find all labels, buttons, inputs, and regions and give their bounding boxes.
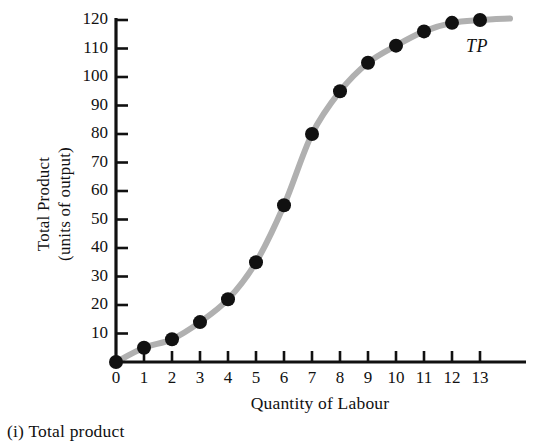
x-tick-label: 11 [409, 368, 439, 388]
x-tick-label: 13 [465, 368, 495, 388]
y-tick-label: 30 [64, 266, 108, 286]
x-tick-label: 6 [269, 368, 299, 388]
data-point-marker [137, 341, 151, 355]
y-tick-label: 70 [64, 152, 108, 172]
x-tick-label: 3 [185, 368, 215, 388]
x-tick-label: 9 [353, 368, 383, 388]
data-point-marker [445, 16, 459, 30]
data-point-marker [333, 84, 347, 98]
data-point-marker [361, 56, 375, 70]
x-tick-label: 8 [325, 368, 355, 388]
data-point-marker [249, 255, 263, 269]
data-point-marker [473, 13, 487, 27]
x-tick-label: 10 [381, 368, 411, 388]
x-tick-label: 4 [213, 368, 243, 388]
x-tick-label: 5 [241, 368, 271, 388]
data-point-marker [221, 292, 235, 306]
y-tick-label: 40 [64, 237, 108, 257]
data-point-marker [193, 315, 207, 329]
data-point-marker [109, 355, 123, 369]
data-point-marker [305, 127, 319, 141]
data-point-marker [165, 332, 179, 346]
x-tick-label: 12 [437, 368, 467, 388]
y-tick-label: 60 [64, 180, 108, 200]
y-tick-label: 90 [64, 95, 108, 115]
data-point-marker [389, 39, 403, 53]
data-point-marker [277, 198, 291, 212]
y-tick-label: 100 [64, 66, 108, 86]
y-tick-label: 20 [64, 294, 108, 314]
x-tick-label: 7 [297, 368, 327, 388]
y-tick-label: 80 [64, 123, 108, 143]
y-tick-label: 120 [64, 9, 108, 29]
y-tick-label: 10 [64, 323, 108, 343]
y-tick-label: 110 [64, 38, 108, 58]
data-point-marker [417, 24, 431, 38]
total-product-curve [116, 19, 510, 363]
x-tick-label: 2 [157, 368, 187, 388]
y-tick-label: 50 [64, 209, 108, 229]
x-tick-label: 1 [129, 368, 159, 388]
x-tick-label: 0 [101, 368, 131, 388]
